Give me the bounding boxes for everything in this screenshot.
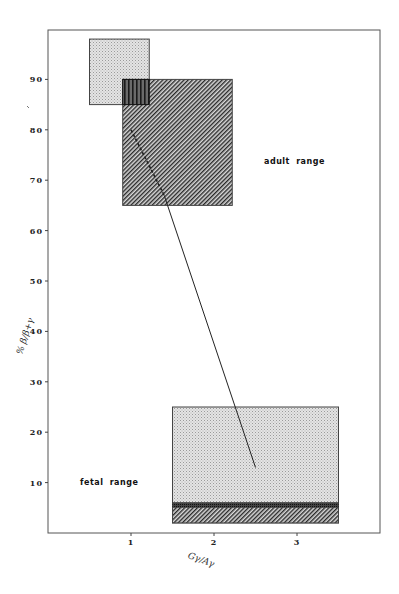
x-axis-label: Gγ/Aγ [187, 550, 217, 569]
x-tick-label: 1 [128, 537, 135, 547]
x-tick-label: 2 [211, 537, 218, 547]
y-tick-label: 30 [30, 377, 43, 387]
regions-layer [90, 39, 339, 523]
x-axis-ticks: 123 [128, 533, 301, 547]
fetal-range-label: fetal range [80, 478, 138, 487]
y-tick-label: 90 [30, 74, 43, 84]
chart: 102030405060708090 123 adult range fetal… [0, 0, 399, 594]
y-tick-label: 10 [30, 478, 43, 488]
y-axis-ticks: 102030405060708090 [30, 74, 48, 487]
stray-mark [27, 106, 29, 108]
y-tick-label: 70 [30, 175, 43, 185]
y-tick-label: 80 [30, 125, 43, 135]
fetal-dark-line [173, 503, 339, 508]
x-tick-label: 3 [294, 537, 301, 547]
y-tick-label: 60 [30, 226, 43, 236]
overlap-region [123, 79, 150, 104]
y-tick-label: 20 [30, 427, 43, 437]
y-tick-label: 50 [30, 276, 43, 286]
adult-range-label: adult range [264, 157, 325, 166]
